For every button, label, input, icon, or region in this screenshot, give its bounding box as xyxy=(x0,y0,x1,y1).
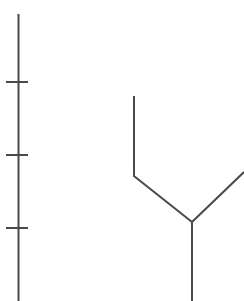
figure-canvas xyxy=(0,0,244,301)
scale-axis-group xyxy=(6,14,28,301)
tree-figure xyxy=(0,0,244,301)
tree-branches-group xyxy=(134,96,244,301)
right-clade-branch xyxy=(192,172,244,222)
left-clade-branch xyxy=(134,96,192,222)
